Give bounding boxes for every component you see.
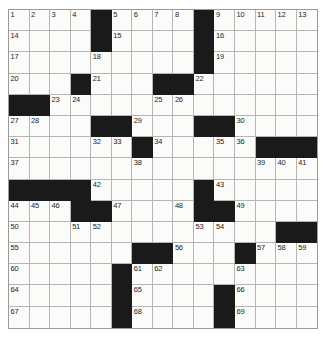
letter-cell[interactable]: 66: [235, 285, 256, 306]
letter-cell[interactable]: 4: [71, 10, 92, 31]
crossword-grid[interactable]: 1234567891011121314151617181920212223242…: [8, 9, 318, 329]
letter-cell[interactable]: [256, 285, 277, 306]
letter-cell[interactable]: [50, 158, 71, 179]
letter-cell[interactable]: [153, 52, 174, 73]
letter-cell[interactable]: [50, 264, 71, 285]
letter-cell[interactable]: [214, 264, 235, 285]
letter-cell[interactable]: [297, 74, 318, 95]
letter-cell[interactable]: 6: [132, 10, 153, 31]
letter-cell[interactable]: [112, 180, 133, 201]
letter-cell[interactable]: [50, 116, 71, 137]
letter-cell[interactable]: [50, 307, 71, 328]
letter-cell[interactable]: 48: [173, 201, 194, 222]
letter-cell[interactable]: 27: [9, 116, 30, 137]
letter-cell[interactable]: [132, 222, 153, 243]
letter-cell[interactable]: 18: [91, 52, 112, 73]
letter-cell[interactable]: [132, 31, 153, 52]
letter-cell[interactable]: [50, 31, 71, 52]
letter-cell[interactable]: [71, 243, 92, 264]
letter-cell[interactable]: [71, 307, 92, 328]
letter-cell[interactable]: [235, 222, 256, 243]
letter-cell[interactable]: 43: [214, 180, 235, 201]
letter-cell[interactable]: 69: [235, 307, 256, 328]
letter-cell[interactable]: [153, 307, 174, 328]
letter-cell[interactable]: [91, 285, 112, 306]
letter-cell[interactable]: 61: [132, 264, 153, 285]
letter-cell[interactable]: [50, 74, 71, 95]
letter-cell[interactable]: 11: [256, 10, 277, 31]
letter-cell[interactable]: 47: [112, 201, 133, 222]
letter-cell[interactable]: [297, 201, 318, 222]
letter-cell[interactable]: 19: [214, 52, 235, 73]
letter-cell[interactable]: [297, 285, 318, 306]
letter-cell[interactable]: 2: [30, 10, 51, 31]
letter-cell[interactable]: 13: [297, 10, 318, 31]
letter-cell[interactable]: [91, 243, 112, 264]
letter-cell[interactable]: [153, 31, 174, 52]
letter-cell[interactable]: [91, 95, 112, 116]
letter-cell[interactable]: [91, 307, 112, 328]
letter-cell[interactable]: [91, 264, 112, 285]
letter-cell[interactable]: 15: [112, 31, 133, 52]
letter-cell[interactable]: 57: [256, 243, 277, 264]
letter-cell[interactable]: [297, 180, 318, 201]
letter-cell[interactable]: 31: [9, 137, 30, 158]
letter-cell[interactable]: 1: [9, 10, 30, 31]
letter-cell[interactable]: [256, 201, 277, 222]
letter-cell[interactable]: [276, 52, 297, 73]
letter-cell[interactable]: [276, 264, 297, 285]
letter-cell[interactable]: [235, 74, 256, 95]
letter-cell[interactable]: [173, 52, 194, 73]
letter-cell[interactable]: 28: [30, 116, 51, 137]
letter-cell[interactable]: 53: [194, 222, 215, 243]
letter-cell[interactable]: [30, 158, 51, 179]
letter-cell[interactable]: [71, 116, 92, 137]
letter-cell[interactable]: [132, 201, 153, 222]
letter-cell[interactable]: 12: [276, 10, 297, 31]
letter-cell[interactable]: 24: [71, 95, 92, 116]
letter-cell[interactable]: [173, 264, 194, 285]
letter-cell[interactable]: [297, 95, 318, 116]
letter-cell[interactable]: 20: [9, 74, 30, 95]
letter-cell[interactable]: 59: [297, 243, 318, 264]
letter-cell[interactable]: 33: [112, 137, 133, 158]
letter-cell[interactable]: 38: [132, 158, 153, 179]
letter-cell[interactable]: 21: [91, 74, 112, 95]
letter-cell[interactable]: [173, 158, 194, 179]
letter-cell[interactable]: [297, 307, 318, 328]
letter-cell[interactable]: 3: [50, 10, 71, 31]
letter-cell[interactable]: 25: [153, 95, 174, 116]
letter-cell[interactable]: [30, 222, 51, 243]
letter-cell[interactable]: [214, 74, 235, 95]
letter-cell[interactable]: [276, 285, 297, 306]
letter-cell[interactable]: 52: [91, 222, 112, 243]
letter-cell[interactable]: [173, 285, 194, 306]
letter-cell[interactable]: [235, 180, 256, 201]
letter-cell[interactable]: [297, 52, 318, 73]
letter-cell[interactable]: [297, 116, 318, 137]
letter-cell[interactable]: [256, 31, 277, 52]
letter-cell[interactable]: 8: [173, 10, 194, 31]
letter-cell[interactable]: [50, 137, 71, 158]
letter-cell[interactable]: 36: [235, 137, 256, 158]
letter-cell[interactable]: [71, 52, 92, 73]
letter-cell[interactable]: 49: [235, 201, 256, 222]
letter-cell[interactable]: [256, 264, 277, 285]
letter-cell[interactable]: 45: [30, 201, 51, 222]
letter-cell[interactable]: 42: [91, 180, 112, 201]
letter-cell[interactable]: [173, 307, 194, 328]
letter-cell[interactable]: 54: [214, 222, 235, 243]
letter-cell[interactable]: [30, 31, 51, 52]
letter-cell[interactable]: [194, 137, 215, 158]
letter-cell[interactable]: 46: [50, 201, 71, 222]
letter-cell[interactable]: [132, 74, 153, 95]
letter-cell[interactable]: 22: [194, 74, 215, 95]
letter-cell[interactable]: 16: [214, 31, 235, 52]
letter-cell[interactable]: [173, 137, 194, 158]
letter-cell[interactable]: [30, 137, 51, 158]
letter-cell[interactable]: [214, 95, 235, 116]
letter-cell[interactable]: 34: [153, 137, 174, 158]
letter-cell[interactable]: [194, 158, 215, 179]
letter-cell[interactable]: [71, 158, 92, 179]
letter-cell[interactable]: 65: [132, 285, 153, 306]
